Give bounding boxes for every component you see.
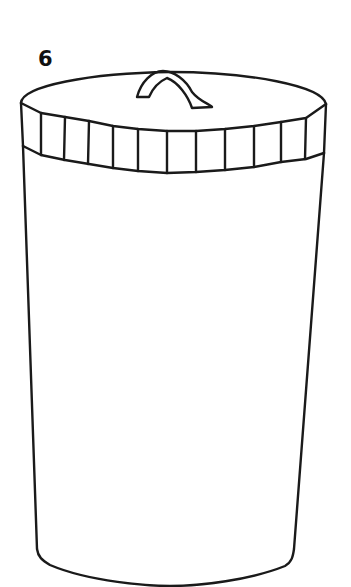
can-body xyxy=(23,146,324,586)
band-left-end xyxy=(21,103,23,146)
band-bottom-edge xyxy=(23,146,324,173)
trash-can-icon xyxy=(0,0,351,587)
lid-back-edge xyxy=(21,72,326,104)
lid-handle xyxy=(137,71,212,108)
band-right-end xyxy=(324,104,326,153)
